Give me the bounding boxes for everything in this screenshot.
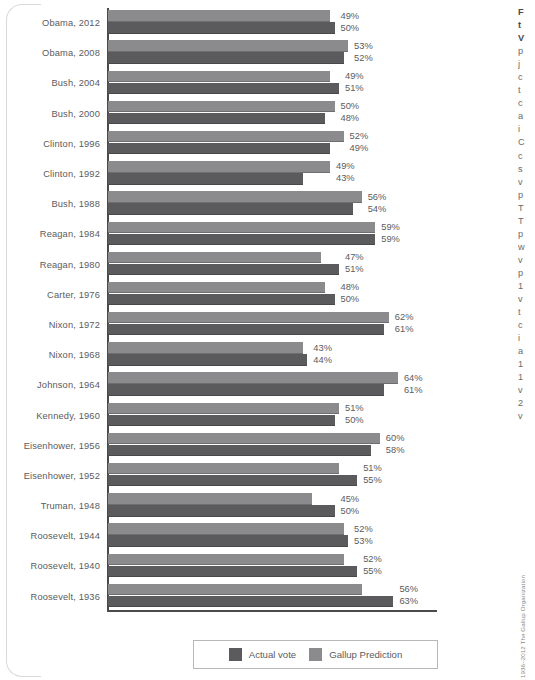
chart-row-bars: 52%49% [108, 129, 512, 159]
bar-gallup-prediction [108, 554, 344, 565]
bar-actual-vote [108, 143, 330, 154]
chart-row-bars: 45%50% [108, 491, 512, 521]
bar-value-labels: 52%53% [348, 521, 382, 551]
bar-value-labels: 51%50% [339, 400, 373, 430]
bar-value-actual-vote: 49% [350, 142, 369, 154]
chart-row: Clinton, 199249%43% [0, 159, 512, 189]
bar-value-actual-vote: 50% [345, 414, 364, 426]
chart-row-label: Nixon, 1968 [0, 350, 100, 360]
bar-value-labels: 56%54% [362, 189, 396, 219]
legend-swatch-actual-vote [229, 648, 242, 661]
bar-value-gallup-prediction: 51% [363, 462, 382, 474]
chart-row: Eisenhower, 195660%58% [0, 431, 512, 461]
bar-gallup-prediction [108, 463, 339, 474]
bar-gallup-prediction [108, 584, 362, 595]
bar-value-gallup-prediction: 51% [345, 402, 364, 414]
bar-value-gallup-prediction: 49% [341, 10, 360, 22]
bar-value-labels: 64%61% [398, 370, 432, 400]
side-text-line: t [518, 84, 535, 97]
bar-value-labels: 59%59% [375, 219, 409, 249]
chart-row: Clinton, 199652%49% [0, 129, 512, 159]
chart-row-label: Bush, 2000 [0, 109, 100, 119]
bar-gallup-prediction [108, 433, 380, 444]
chart-row-label: Roosevelt, 1940 [0, 561, 100, 571]
side-text-line: 2 [518, 397, 535, 410]
bar-gallup-prediction [108, 523, 344, 534]
bar-actual-vote [108, 596, 393, 607]
bar-gallup-prediction [108, 191, 362, 202]
chart-row-bars: 49%51% [108, 68, 512, 98]
bar-actual-vote [108, 173, 303, 184]
side-text-line: v [518, 384, 535, 397]
bar-value-labels: 47%51% [339, 250, 373, 280]
bar-value-actual-vote: 55% [363, 474, 382, 486]
chart-row-bars: 49%43% [108, 159, 512, 189]
chart-row-bars: 56%54% [108, 189, 512, 219]
legend-label-actual-vote: Actual vote [249, 649, 296, 660]
bar-gallup-prediction [108, 222, 375, 233]
side-text-line: t [518, 306, 535, 319]
bar-value-gallup-prediction: 45% [341, 493, 360, 505]
bar-value-actual-vote: 43% [336, 172, 355, 184]
bar-actual-vote [108, 264, 339, 275]
chart-row: Roosevelt, 193656%63% [0, 582, 512, 612]
bar-gallup-prediction [108, 342, 303, 353]
bar-value-gallup-prediction: 60% [386, 432, 405, 444]
chart-row-bars: 47%51% [108, 250, 512, 280]
bar-value-labels: 60%58% [380, 431, 414, 461]
source-credit: 1936–2012 The Gallup Organization [514, 566, 530, 678]
chart-row-label: Carter, 1976 [0, 290, 100, 300]
chart-row: Bush, 200449%51% [0, 68, 512, 98]
side-text-line: p [518, 189, 535, 202]
chart-row: Roosevelt, 194052%55% [0, 551, 512, 581]
chart-row-label: Obama, 2008 [0, 48, 100, 58]
bar-value-actual-vote: 50% [341, 293, 360, 305]
side-text-line: T [518, 215, 535, 228]
chart-row: Nixon, 196843%44% [0, 340, 512, 370]
side-text-line: i [518, 123, 535, 136]
side-text-line: i [518, 332, 535, 345]
bar-actual-vote [108, 566, 357, 577]
chart-row: Kennedy, 196051%50% [0, 400, 512, 430]
side-text-line: v [518, 293, 535, 306]
side-text-line: 1 [518, 358, 535, 371]
chart-row: Reagan, 198459%59% [0, 219, 512, 249]
bar-gallup-prediction [108, 312, 389, 323]
bar-value-gallup-prediction: 49% [336, 160, 355, 172]
bar-value-gallup-prediction: 47% [345, 251, 364, 263]
bar-value-gallup-prediction: 56% [399, 583, 418, 595]
chart-row-bars: 52%53% [108, 521, 512, 551]
bar-value-gallup-prediction: 52% [363, 553, 382, 565]
legend-item-gallup-prediction: Gallup Prediction [309, 648, 402, 661]
chart-row-label: Obama, 2012 [0, 18, 100, 28]
bar-value-labels: 49%43% [330, 159, 364, 189]
bar-actual-vote [108, 52, 344, 63]
bar-value-gallup-prediction: 52% [350, 130, 369, 142]
side-text-line: v [518, 254, 535, 267]
bar-value-actual-vote: 50% [341, 22, 360, 34]
bar-value-labels: 56%63% [393, 582, 427, 612]
chart-row-label: Johnson, 1964 [0, 380, 100, 390]
bar-value-actual-vote: 59% [381, 233, 400, 245]
side-text-line: s [518, 163, 535, 176]
chart-legend: Actual vote Gallup Prediction [193, 640, 438, 669]
bar-value-actual-vote: 53% [354, 535, 373, 547]
bar-value-labels: 43%44% [307, 340, 341, 370]
side-text-line: w [518, 241, 535, 254]
card-corner-bottom-left [6, 642, 41, 677]
chart-row-bars: 50%48% [108, 99, 512, 129]
bar-gallup-prediction [108, 493, 312, 504]
chart-rows: Obama, 201249%50%Obama, 200853%52%Bush, … [0, 8, 512, 612]
chart-row-bars: 43%44% [108, 340, 512, 370]
chart-row-bars: 56%63% [108, 582, 512, 612]
bar-value-gallup-prediction: 52% [354, 523, 373, 535]
bar-actual-vote [108, 324, 384, 335]
bar-value-gallup-prediction: 62% [395, 311, 414, 323]
side-text-line: p [518, 45, 535, 58]
side-text-line: t [518, 19, 535, 32]
bar-actual-vote [108, 505, 335, 516]
chart-row-label: Eisenhower, 1956 [0, 441, 100, 451]
bar-actual-vote [108, 354, 307, 365]
chart-row-label: Nixon, 1972 [0, 320, 100, 330]
side-text-line: 1 [518, 371, 535, 384]
